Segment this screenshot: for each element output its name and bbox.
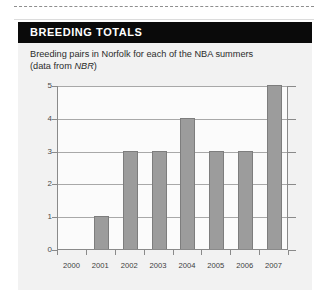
bar-2005[interactable] (209, 151, 224, 250)
gridline-y-1 (57, 217, 288, 218)
bar-2004[interactable] (180, 118, 195, 250)
x-tick-mark-end (288, 250, 289, 255)
subtitle-line-2-pre: (data from (30, 61, 74, 71)
y-tick-mark-right-2 (288, 184, 296, 185)
x-tick-mark-2004 (173, 250, 174, 255)
breeding-totals-panel: BREEDING TOTALS Breeding pairs in Norfol… (18, 22, 312, 290)
y-tick-mark-right-1 (288, 217, 296, 218)
y-tick-label-5: 5 (30, 82, 52, 90)
bar-2006[interactable] (238, 151, 253, 250)
screenshot-root: BREEDING TOTALS Breeding pairs in Norfol… (0, 0, 326, 301)
x-tick-mark-2005 (201, 250, 202, 255)
y-tick-label-0: 0 (30, 246, 52, 254)
y-tick-label-1: 1 (30, 213, 52, 221)
y-tick-mark-right-4 (288, 119, 296, 120)
y-tick-mark-right-0 (288, 250, 296, 251)
subtitle-source-name: NBR (74, 61, 93, 71)
gridline-y-5 (57, 86, 288, 87)
y-tick-mark-right-5 (288, 86, 296, 87)
y-tick-mark-right-3 (288, 152, 296, 153)
panel-subtitle: Breeding pairs in Norfolk for each of th… (30, 48, 302, 73)
x-tick-mark-2001 (86, 250, 87, 255)
y-tick-label-4: 4 (30, 115, 52, 123)
bar-2007[interactable] (267, 85, 282, 250)
top-dashed-divider (14, 6, 314, 7)
y-tick-label-3: 3 (30, 148, 52, 156)
page-title: BREEDING TOTALS (30, 26, 142, 39)
subtitle-line-2-post: ) (94, 61, 97, 71)
bar-2003[interactable] (152, 151, 167, 250)
breeding-pairs-bar-chart: 012345 20002001200220032004200520062007 (30, 82, 300, 282)
x-tick-mark-2007 (259, 250, 260, 255)
subtitle-line-1: Breeding pairs in Norfolk for each of th… (30, 49, 253, 59)
gridline-y-3 (57, 152, 288, 153)
panel-header-bar: BREEDING TOTALS (18, 22, 312, 43)
y-axis-right-line (287, 86, 288, 250)
gridline-y-2 (57, 184, 288, 185)
top-thin-divider (14, 19, 314, 20)
x-tick-label-2007: 2007 (254, 261, 294, 270)
y-tick-label-2: 2 (30, 180, 52, 188)
y-axis-line (57, 86, 58, 250)
x-tick-mark-2000 (57, 250, 58, 255)
x-tick-mark-2003 (144, 250, 145, 255)
x-tick-mark-2006 (230, 250, 231, 255)
bar-2001[interactable] (94, 216, 109, 250)
x-tick-mark-2002 (115, 250, 116, 255)
gridline-y-4 (57, 119, 288, 120)
plot-area (57, 86, 288, 250)
bar-2002[interactable] (123, 151, 138, 250)
